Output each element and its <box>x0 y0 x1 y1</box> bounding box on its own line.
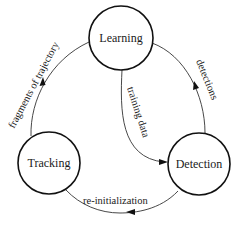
arrowhead-up-icon <box>193 81 199 90</box>
node-learning: Learning <box>89 6 153 70</box>
edge-label-fragments-of-trajectory: fragments of trajectory <box>6 39 61 130</box>
edge-label-training-data: training data <box>125 85 152 139</box>
node-detection: Detection <box>168 133 230 195</box>
edge-re-initialization: re-initialization <box>66 190 178 215</box>
edge-label-re-initialization: re-initialization <box>83 195 148 206</box>
node-tracking: Tracking <box>18 132 80 194</box>
node-label-detection: Detection <box>176 157 223 171</box>
edge-training-data: training data <box>121 70 168 165</box>
node-label-learning: Learning <box>99 31 142 45</box>
arrowhead-left-icon <box>126 209 135 215</box>
edge-fragments-of-trajectory: fragments of trajectory <box>6 39 89 136</box>
arrowhead-right-icon <box>159 159 168 165</box>
edge-detections: detections <box>152 43 220 133</box>
node-label-tracking: Tracking <box>28 156 71 170</box>
tld-cycle-diagram: fragments of trajectory detections train… <box>0 0 232 226</box>
edge-line <box>31 42 89 136</box>
